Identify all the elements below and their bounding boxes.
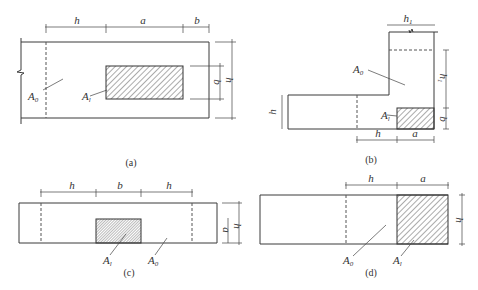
diagram-b: h1 h1 b h h a A0 Al (b) [266,12,450,166]
dim-label-b: b [194,14,200,26]
dim-label-h-right: h [224,77,236,83]
bearing-area-diagrams: h a b b h A0 Al (a) h1 [0,0,478,290]
dim-label-h: h [166,179,172,191]
dim-label-b-right: b [212,79,224,85]
leader-A0 [353,225,386,256]
label-A0: A0 [342,254,354,268]
dim-label-b: b [117,179,123,191]
dim-label-h: h [368,172,374,184]
diagram-d: h a h A0 Al (d) [260,172,466,279]
dim-label-h: h [69,179,75,191]
caption-d: (d) [365,267,377,279]
dim-label-a-bottom: a [412,127,418,139]
caption-c: (c) [123,267,134,279]
label-A0: A0 [352,63,364,77]
leader-A0 [155,238,167,255]
label-A0: A0 [27,90,39,104]
local-area-Al [397,195,448,244]
diagram-a: h a b b h A0 Al (a) [17,14,236,169]
dim-label-h-right: h [454,217,466,223]
leader-Al [90,90,107,96]
dim-label-a-right: a [221,227,233,233]
label-Al: Al [81,90,91,104]
caption-b: (b) [365,154,377,166]
local-area-Al [397,108,434,129]
local-area-Al [96,219,141,243]
label-Al: Al [392,254,402,268]
label-Al: Al [102,254,112,268]
caption-a: (a) [125,157,136,169]
dim-label-h-left: h [266,109,278,115]
dim-label-h-right: h [232,223,244,229]
dim-label-a: a [140,14,146,26]
dim-label-h: h [74,14,80,26]
break-line-icon [17,38,24,124]
dim-label-a: a [420,172,426,184]
dim-label-h-bottom: h [375,127,381,139]
dim-label-h1-top: h1 [404,12,413,26]
dim-label-h1-right: h1 [436,74,450,83]
leader-A0 [368,70,405,85]
diagram-c: h b h a h Al A0 (c) [19,179,244,279]
local-area-Al [106,66,183,99]
label-Al: Al [380,109,390,123]
dim-label-b-right: b [438,116,450,122]
label-A0: A0 [147,254,159,268]
